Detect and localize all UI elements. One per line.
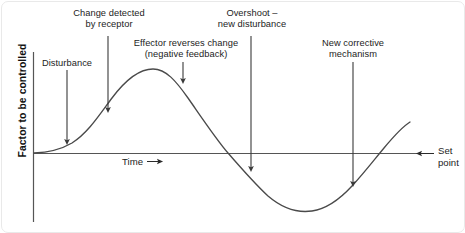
annotation-effector: Effector reverses change (negative feedb… <box>124 38 248 61</box>
annotation-disturbance: Disturbance <box>24 58 110 69</box>
feedback-diagram-figure: Factor to be controlled Time Set point D… <box>0 0 465 233</box>
annotation-overshoot: Overshoot – new disturbance <box>200 8 304 31</box>
x-axis-label: Time <box>122 156 143 167</box>
diagram-canvas <box>0 0 465 233</box>
set-point-label: Set point <box>438 145 459 168</box>
annotation-change-detected: Change detected by receptor <box>63 8 155 31</box>
response-curve <box>34 69 410 211</box>
annotation-new-corrective: New corrective mechanism <box>305 38 401 61</box>
